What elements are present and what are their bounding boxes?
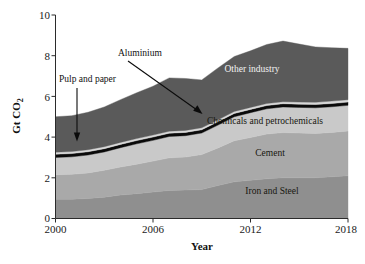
y-tick-label-6: 6 bbox=[45, 91, 51, 103]
band-label-iron-and-steel: Iron and Steel bbox=[245, 186, 299, 196]
annotation-label-pulp-and-paper: Pulp and paper bbox=[59, 74, 117, 84]
y-tick-label-10: 10 bbox=[39, 9, 51, 21]
band-label-cement: Cement bbox=[255, 148, 285, 158]
y-tick-label-2: 2 bbox=[45, 172, 51, 184]
band-label-other-industry: Other industry bbox=[224, 64, 279, 74]
band-label-chemicals: Chemicals and petrochemicals bbox=[207, 116, 323, 126]
x-axis-title: Year bbox=[191, 240, 213, 252]
x-tick-label-2018: 2018 bbox=[335, 223, 358, 235]
y-tick-label-4: 4 bbox=[45, 131, 51, 143]
x-tick-label-2006: 2006 bbox=[142, 223, 165, 235]
x-tick-label-2012: 2012 bbox=[240, 223, 262, 235]
x-tick-label-2000: 2000 bbox=[45, 223, 68, 235]
stacked-area-chart: 10 8 6 4 2 0 2000 2006 2012 2018 Year Gt… bbox=[0, 0, 365, 264]
chart-figure: 10 8 6 4 2 0 2000 2006 2012 2018 Year Gt… bbox=[0, 0, 365, 264]
y-tick-label-8: 8 bbox=[45, 50, 51, 62]
annotation-label-aluminium: Aluminium bbox=[118, 48, 162, 58]
